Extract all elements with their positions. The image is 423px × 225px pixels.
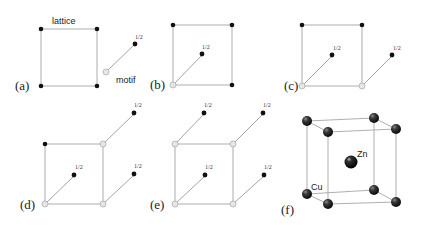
motif-half-atom	[262, 173, 267, 178]
cu-label: Cu	[311, 182, 323, 192]
motif-half-atom	[133, 42, 138, 47]
panel-label-b: (b)	[150, 77, 165, 92]
motif-bond	[176, 114, 204, 143]
half-height-label: 1/2	[134, 163, 142, 169]
cu-atom	[391, 197, 401, 207]
motif-bond	[234, 114, 263, 143]
motif-half-atom	[202, 111, 207, 116]
motif-bond	[303, 56, 332, 85]
lattice-label: lattice	[52, 16, 76, 26]
cu-atom	[369, 185, 379, 195]
zn-label: Zn	[357, 149, 368, 159]
motif-bond	[363, 56, 392, 85]
cu-atom	[323, 199, 333, 209]
half-height-label: 1/2	[204, 102, 212, 108]
lattice-point	[171, 23, 176, 28]
zn-atom	[345, 156, 358, 169]
motif-origin-atom	[299, 83, 305, 89]
motif-label: motif	[116, 75, 136, 85]
motif-bond	[107, 44, 135, 71]
half-height-label: 1/2	[393, 45, 401, 51]
motif-origin-atom	[103, 69, 109, 75]
motif-origin-atom	[230, 141, 236, 147]
motif-bond	[234, 176, 264, 203]
half-height-label: 1/2	[202, 44, 210, 50]
motif-origin-atom	[359, 83, 365, 89]
motif-origin-atom	[170, 82, 176, 88]
motif-origin-atom	[172, 201, 178, 207]
panel-label-f: (f)	[281, 202, 294, 217]
motif-bond	[176, 176, 205, 203]
half-height-label: 1/2	[135, 34, 143, 40]
half-height-label: 1/2	[134, 102, 142, 108]
motif-half-atom	[330, 53, 335, 58]
cu-atom	[391, 124, 401, 134]
lattice-square	[41, 29, 97, 86]
motif-half-atom	[132, 172, 137, 177]
motif-half-atom	[203, 173, 208, 178]
lattice-point	[230, 23, 235, 28]
panel-a: lattice 1/2 motif (a)	[15, 16, 143, 93]
cube-front-face	[328, 129, 396, 204]
half-height-label: 1/2	[75, 164, 83, 170]
motif-bond	[174, 55, 202, 84]
motif-half-atom	[200, 52, 205, 57]
motif-bond	[104, 114, 134, 143]
lattice-point	[43, 142, 48, 147]
half-height-label: 1/2	[263, 102, 271, 108]
cu-atom	[369, 113, 379, 123]
motif-origin-atom	[100, 141, 106, 147]
motif-origin-atom	[42, 201, 48, 207]
panel-label-e: (e)	[150, 197, 164, 212]
motif-half-atom	[72, 173, 77, 178]
lattice-point	[39, 27, 44, 32]
cu-atom	[323, 127, 333, 137]
half-height-label: 1/2	[205, 164, 213, 170]
motif-bond	[104, 175, 134, 203]
panel-label-a: (a)	[15, 78, 29, 93]
motif-half-atom	[132, 111, 137, 116]
lattice-point	[95, 27, 100, 32]
panel-label-d: (d)	[20, 197, 35, 212]
motif-half-atom	[390, 53, 395, 58]
motif-origin-atom	[230, 201, 236, 207]
panel-f: Cu Zn (f)	[281, 113, 401, 217]
lattice-point	[95, 84, 100, 89]
lattice-point	[360, 23, 365, 28]
panel-d: 1/2 1/2 1/2 (d)	[20, 102, 142, 212]
lattice-point	[39, 84, 44, 89]
lattice-point	[230, 83, 235, 88]
half-height-label: 1/2	[264, 164, 272, 170]
motif-origin-atom	[172, 141, 178, 147]
motif-origin-atom	[100, 201, 106, 207]
motif-half-atom	[261, 111, 266, 116]
panel-b: 1/2 (b)	[150, 23, 234, 92]
panel-c: 1/2 1/2 (c)	[284, 23, 401, 93]
panel-e: 1/2 1/2 1/2 1/2 (e)	[150, 102, 272, 212]
half-height-label: 1/2	[333, 45, 341, 51]
motif-bond	[46, 176, 74, 203]
lattice-point	[300, 23, 305, 28]
cu-atom	[302, 116, 312, 126]
crystal-structure-figure: lattice 1/2 motif (a) 1/2 (b) 1/2	[0, 0, 423, 225]
panel-label-c: (c)	[284, 78, 298, 93]
